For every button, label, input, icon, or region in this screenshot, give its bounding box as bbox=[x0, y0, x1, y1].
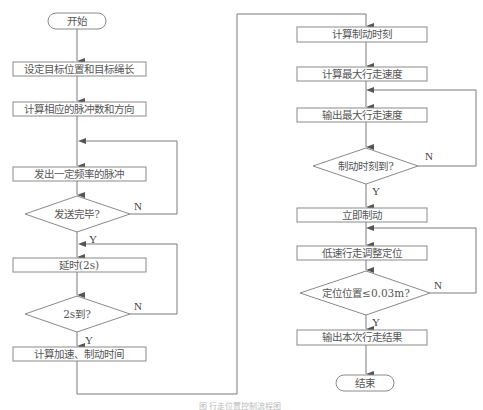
process-label: 立即制动 bbox=[342, 209, 382, 221]
no-label: N bbox=[434, 279, 442, 291]
figure-caption: 图 行走位置控制流程图 bbox=[199, 401, 282, 410]
process-calc-times: 计算加速、制动时间 bbox=[13, 347, 146, 361]
process-send-pulses: 发出一定频率的脉冲 bbox=[13, 167, 146, 181]
process-brake: 立即制动 bbox=[297, 208, 427, 222]
process-set-target: 设定目标位置和目标绳长 bbox=[13, 62, 146, 76]
process-label: 计算加速、制动时间 bbox=[34, 348, 124, 360]
process-label: 延时(2s) bbox=[59, 259, 99, 271]
decision-2s-elapsed: 2s到? bbox=[25, 296, 130, 332]
end-terminator: 结束 bbox=[336, 375, 394, 391]
no-label: N bbox=[134, 200, 142, 212]
start-label: 开始 bbox=[67, 15, 88, 27]
process-label: 设定目标位置和目标绳长 bbox=[24, 63, 135, 75]
arrow-icon bbox=[366, 87, 374, 93]
process-label: 低速行走调整定位 bbox=[322, 247, 403, 259]
decision-label: 定位位置≤0.03m? bbox=[322, 287, 410, 299]
process-label: 发出一定频率的脉冲 bbox=[34, 168, 124, 180]
arrow-icon bbox=[78, 241, 86, 247]
process-delay: 延时(2s) bbox=[13, 258, 146, 272]
process-calc-brake-time: 计算制动时刻 bbox=[297, 27, 427, 42]
process-low-speed-adjust: 低速行走调整定位 bbox=[297, 246, 427, 260]
flowchart: 开始 设定目标位置和目标绳长 计算相应的脉冲数和方向 发出一定频率的脉冲 发送完… bbox=[0, 0, 483, 410]
decision-position-tolerance: 定位位置≤0.03m? bbox=[300, 271, 430, 315]
start-terminator: 开始 bbox=[48, 13, 106, 29]
process-label: 输出本次行走结果 bbox=[322, 331, 403, 343]
arrow-icon bbox=[78, 138, 86, 144]
process-label: 计算制动时刻 bbox=[332, 28, 392, 40]
decision-sent-complete: 发送完毕? bbox=[25, 196, 130, 232]
decision-label: 发送完毕? bbox=[54, 208, 100, 220]
process-label: 计算最大行走速度 bbox=[322, 68, 403, 80]
yes-label: Y bbox=[85, 334, 93, 346]
arrow-icon bbox=[366, 225, 374, 231]
process-output-result: 输出本次行走结果 bbox=[297, 330, 427, 345]
yes-label: Y bbox=[372, 316, 380, 328]
no-label: N bbox=[134, 300, 142, 312]
process-calc-max-speed: 计算最大行走速度 bbox=[297, 67, 427, 81]
no-label: N bbox=[425, 150, 433, 162]
decision-brake-time-reached: 制动时刻到? bbox=[313, 148, 418, 184]
decision-label: 2s到? bbox=[63, 308, 91, 320]
process-label: 输出最大行走速度 bbox=[322, 109, 403, 121]
process-label: 计算相应的脉冲数和方向 bbox=[24, 103, 134, 115]
process-output-max-speed: 输出最大行走速度 bbox=[297, 108, 427, 122]
decision-label: 制动时刻到? bbox=[338, 160, 394, 172]
process-calc-pulses: 计算相应的脉冲数和方向 bbox=[13, 102, 146, 116]
end-label: 结束 bbox=[355, 377, 376, 389]
yes-label: Y bbox=[372, 185, 380, 197]
yes-label: Y bbox=[89, 233, 97, 245]
